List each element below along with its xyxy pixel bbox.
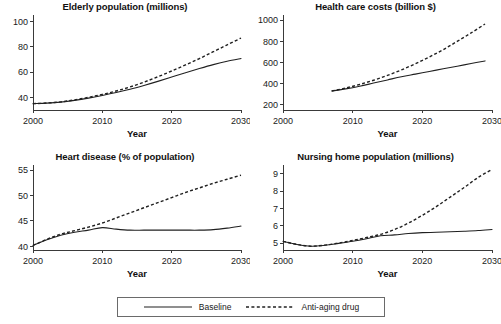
svg-text:2020: 2020 (162, 116, 182, 126)
panel-elderly-population: Elderly population (millions) 4060801002… (0, 0, 250, 150)
svg-text:400: 400 (263, 79, 278, 89)
series-baseline (33, 58, 241, 103)
legend-entry-anti-aging-drug: Anti-aging drug (245, 302, 359, 312)
svg-text:600: 600 (263, 58, 278, 68)
plot-elderly-population: 4060801002000201020202030Year (0, 0, 250, 150)
svg-text:2020: 2020 (162, 256, 182, 266)
svg-text:2030: 2030 (231, 116, 250, 126)
svg-text:60: 60 (18, 67, 28, 77)
svg-text:Year: Year (127, 128, 147, 139)
svg-text:2000: 2000 (23, 256, 43, 266)
svg-text:40: 40 (18, 93, 28, 103)
svg-text:2000: 2000 (273, 256, 293, 266)
svg-text:200: 200 (263, 100, 278, 110)
svg-text:2000: 2000 (273, 116, 293, 126)
plot-nursing-home-population: 567892000201020202030Year (250, 150, 501, 290)
svg-text:7: 7 (273, 204, 278, 214)
multi-panel-chart-figure: Elderly population (millions) 4060801002… (0, 0, 501, 324)
svg-text:Year: Year (377, 268, 397, 279)
panel-grid: Elderly population (millions) 4060801002… (0, 0, 501, 290)
plot-heart-disease: 404550552000201020202030Year (0, 150, 250, 290)
svg-text:2010: 2010 (92, 256, 112, 266)
legend-label-anti-aging-drug: Anti-aging drug (301, 302, 359, 312)
svg-text:100: 100 (13, 17, 28, 27)
panel-health-care-costs: Health care costs (billion $) 2004006008… (250, 0, 501, 150)
svg-text:40: 40 (18, 242, 28, 252)
legend-entry-baseline: Baseline (143, 302, 232, 312)
series-anti-aging-drug (283, 169, 492, 246)
svg-text:2030: 2030 (482, 116, 501, 126)
svg-text:2010: 2010 (92, 116, 112, 126)
panel-heart-disease: Heart disease (% of population) 40455055… (0, 150, 250, 290)
legend-swatch-dashed-icon (245, 303, 295, 311)
svg-text:50: 50 (18, 191, 28, 201)
svg-text:80: 80 (18, 42, 28, 52)
svg-text:Year: Year (127, 268, 147, 279)
series-baseline (33, 226, 241, 245)
svg-text:2030: 2030 (482, 256, 501, 266)
panel-nursing-home-population: Nursing home population (millions) 56789… (250, 150, 501, 290)
svg-text:Year: Year (377, 128, 397, 139)
svg-text:2030: 2030 (231, 256, 250, 266)
legend-label-baseline: Baseline (199, 302, 232, 312)
svg-text:2020: 2020 (412, 256, 432, 266)
svg-text:2000: 2000 (23, 116, 43, 126)
legend-swatch-solid-icon (143, 303, 193, 311)
svg-text:8: 8 (273, 186, 278, 196)
svg-text:6: 6 (273, 221, 278, 231)
series-anti-aging-drug (332, 24, 485, 91)
svg-text:800: 800 (263, 37, 278, 47)
svg-text:5: 5 (273, 238, 278, 248)
plot-health-care-costs: 20040060080010002000201020202030Year (250, 0, 501, 150)
svg-text:9: 9 (273, 169, 278, 179)
chart-legend: Baseline Anti-aging drug (117, 297, 385, 317)
svg-text:2010: 2010 (343, 256, 363, 266)
series-anti-aging-drug (33, 38, 241, 104)
svg-text:45: 45 (18, 216, 28, 226)
svg-text:2010: 2010 (343, 116, 363, 126)
svg-text:55: 55 (18, 165, 28, 175)
svg-text:2020: 2020 (412, 116, 432, 126)
svg-text:1000: 1000 (258, 15, 278, 25)
